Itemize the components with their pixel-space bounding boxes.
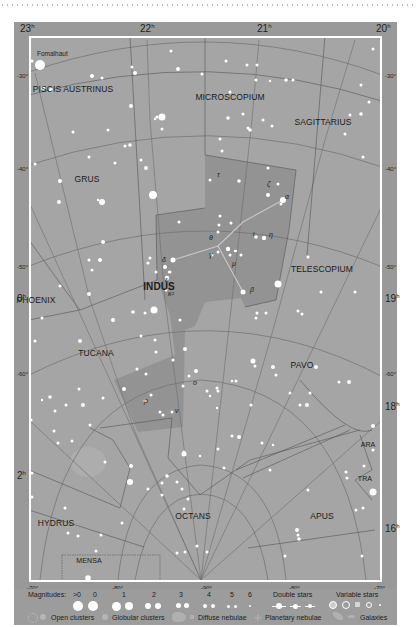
star	[250, 404, 253, 407]
star	[144, 166, 148, 170]
star	[309, 392, 312, 395]
star	[206, 551, 209, 554]
star	[344, 133, 347, 136]
star	[31, 496, 34, 499]
greek-star-label: η	[269, 231, 273, 238]
mag-0-symbol	[88, 601, 98, 611]
greek-star-label: θ	[209, 234, 213, 241]
star	[122, 387, 126, 391]
star	[154, 118, 156, 120]
star	[345, 471, 348, 474]
ra-unit: h	[151, 23, 154, 29]
star	[225, 60, 228, 63]
star	[305, 403, 309, 407]
star	[230, 222, 233, 225]
star	[269, 80, 271, 82]
greek-star-label: ι	[253, 230, 255, 237]
star	[223, 467, 226, 470]
mag-3a-symbol	[176, 603, 181, 608]
galaxy-symbol-2	[348, 615, 355, 618]
constellation-label-microscopium: MICROSCOPIUM	[195, 92, 264, 102]
star	[159, 114, 166, 121]
star	[171, 258, 176, 263]
star	[88, 259, 91, 262]
star	[85, 575, 91, 581]
star	[176, 552, 179, 555]
star	[217, 390, 220, 393]
star	[360, 84, 363, 87]
ra-unit: h	[387, 23, 390, 29]
mag-2a-symbol	[145, 603, 151, 609]
star	[292, 79, 295, 82]
star	[266, 193, 270, 197]
star	[97, 199, 99, 201]
star	[216, 387, 219, 390]
star	[182, 385, 185, 388]
constellation-label-mensa: MENSA	[76, 557, 101, 564]
star	[226, 247, 230, 251]
star	[34, 163, 37, 166]
ra-label-side: 19h	[385, 293, 399, 304]
star	[354, 291, 357, 294]
star	[297, 537, 301, 541]
constellation-label-hydrus: HYDRUS	[38, 518, 75, 528]
star	[99, 199, 105, 205]
star	[145, 373, 148, 376]
constellation-label-pavo: PAVO	[291, 360, 314, 370]
star	[183, 451, 186, 454]
star	[240, 254, 243, 257]
star	[67, 532, 70, 535]
star	[226, 116, 230, 120]
star	[188, 375, 191, 378]
greek-star-label: γ	[209, 251, 213, 258]
ra-unit: h	[268, 23, 271, 29]
star	[165, 474, 169, 478]
legend-magnitudes-label: Magnitudes:	[28, 591, 66, 598]
double-star-line-3	[305, 606, 315, 607]
dec-label-left: -40°	[17, 166, 28, 172]
legend-mag-5: 5	[230, 591, 234, 598]
star	[89, 424, 92, 427]
ra-label-top: 22h	[140, 23, 154, 34]
star	[255, 317, 258, 320]
star	[297, 310, 300, 313]
legend-mag-2: 2	[152, 591, 156, 598]
star	[131, 310, 135, 314]
planetary-nebula-icon: ✛	[254, 613, 262, 623]
star	[262, 236, 266, 240]
mag-6-symbol	[249, 605, 251, 607]
star	[217, 251, 220, 254]
star	[111, 318, 115, 322]
dec-label-left: -50°	[17, 264, 28, 270]
greek-star-label: κ²	[168, 290, 174, 297]
legend-diffuse-nebulae: Diffuse nebulae	[198, 614, 247, 621]
star	[372, 48, 375, 51]
star	[77, 535, 80, 538]
star	[206, 390, 209, 393]
star	[87, 292, 91, 296]
constellation-label-ara: ARA	[361, 441, 376, 448]
star	[275, 374, 278, 377]
star	[194, 369, 198, 373]
star	[363, 465, 366, 468]
star	[48, 395, 52, 399]
star	[156, 116, 159, 119]
legend-variable-stars-label: Variable stars	[336, 591, 378, 598]
ra-label-top: 20h	[376, 23, 390, 34]
legend-planetary-nebulae: Planetary nebulae	[265, 614, 321, 621]
star	[149, 257, 152, 260]
star	[150, 394, 153, 397]
star	[176, 67, 180, 71]
mag-3b-symbol	[184, 603, 189, 608]
star	[355, 509, 358, 512]
star	[275, 281, 282, 288]
star	[35, 60, 45, 70]
star	[217, 448, 220, 451]
star	[172, 359, 175, 362]
star	[31, 472, 34, 475]
top-dotted-rule	[0, 4, 417, 6]
star	[140, 335, 143, 338]
diffuse-nebula-symbol-2	[190, 615, 194, 619]
star	[161, 494, 164, 497]
star	[221, 150, 224, 153]
